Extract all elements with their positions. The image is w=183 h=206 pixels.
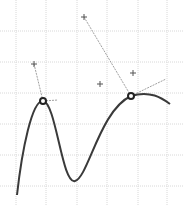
anchor-left-ring-icon[interactable] xyxy=(40,98,46,104)
anchor-right-ring-icon[interactable] xyxy=(128,93,134,99)
anchor-points[interactable] xyxy=(40,93,134,104)
handle-lines xyxy=(34,17,166,101)
grid xyxy=(0,0,183,206)
control-point-2-plus-icon[interactable] xyxy=(81,14,87,20)
control-points[interactable] xyxy=(31,14,136,87)
bezier-canvas[interactable] xyxy=(0,0,183,206)
control-point-3-plus-icon[interactable] xyxy=(97,81,103,87)
handle-line xyxy=(34,64,43,101)
bezier-curve[interactable] xyxy=(17,94,170,195)
control-point-4-plus-icon[interactable] xyxy=(130,70,136,76)
